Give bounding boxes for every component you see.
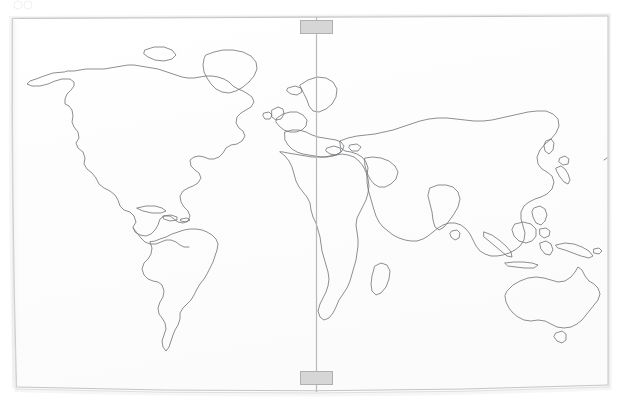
- artifact-dot-2: [24, 1, 32, 9]
- top-left-artifact: [0, 0, 621, 403]
- map-canvas: [0, 0, 621, 403]
- artifact-dot-1: [14, 1, 22, 9]
